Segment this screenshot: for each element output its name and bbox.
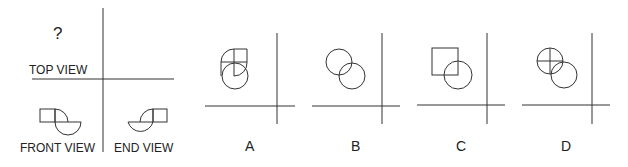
option-d-shape [522, 33, 610, 124]
option-c-label[interactable]: C [456, 138, 466, 154]
option-b-shape [312, 33, 400, 124]
front-view-shape [40, 109, 81, 135]
option-c-shape [417, 33, 505, 124]
end-view-label: END VIEW [114, 141, 173, 155]
end-view-shape [128, 109, 167, 131]
option-a-shape [205, 33, 295, 124]
front-view-label: FRONT VIEW [20, 141, 95, 155]
option-b-label[interactable]: B [351, 138, 360, 154]
option-d-label[interactable]: D [561, 138, 571, 154]
question-mark: ? [53, 24, 62, 44]
option-a-label[interactable]: A [245, 138, 254, 154]
top-view-label: TOP VIEW [29, 63, 87, 77]
